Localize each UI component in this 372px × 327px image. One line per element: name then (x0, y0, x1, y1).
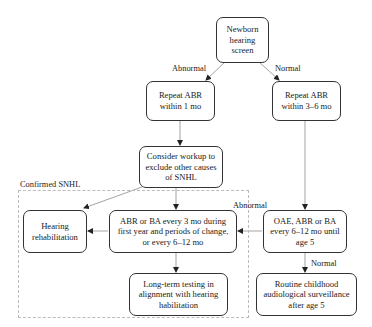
node-text: Repeat ABR within 1 mo (151, 90, 210, 111)
node-text: Repeat ABR within 3–6 mo (277, 90, 336, 111)
node-hearing-rehabilitation: Hearing rehabilitation (23, 210, 87, 253)
node-repeat-abr-1mo: Repeat ABR within 1 mo (146, 81, 215, 121)
edge-label-normal-2: Normal (311, 259, 337, 269)
node-text: Newborn hearing screen (221, 24, 264, 56)
node-text: Routine childhood audiological surveilla… (261, 279, 352, 311)
node-text: Hearing rehabilitation (28, 221, 82, 242)
node-consider-workup: Consider workup to exclude other causes … (139, 146, 223, 188)
node-repeat-abr-3-6mo: Repeat ABR within 3–6 mo (272, 81, 341, 121)
node-oae-abr-ba: OAE, ABR or BA every 6–12 mo until age 5 (263, 210, 347, 253)
node-text: Consider workup to exclude other causes … (144, 151, 218, 183)
confirmed-snhl-label: Confirmed SNHL (20, 180, 80, 190)
node-abr-or-ba: ABR or BA every 3 mo during first year a… (109, 210, 237, 253)
node-text: Long-term testing in alignment with hear… (134, 279, 223, 311)
edge-label-normal-1: Normal (275, 64, 301, 74)
edge-label-abnormal-2: Abnormal (233, 201, 267, 211)
edge-newborn-repeat1 (206, 62, 225, 80)
edge-label-abnormal-1: Abnormal (172, 64, 206, 74)
node-text: ABR or BA every 3 mo during first year a… (114, 216, 232, 248)
node-routine-surveillance: Routine childhood audiological surveilla… (256, 273, 357, 316)
node-newborn-hearing-screen: Newborn hearing screen (216, 17, 269, 63)
node-text: OAE, ABR or BA every 6–12 mo until age 5 (268, 216, 342, 248)
node-long-term-testing: Long-term testing in alignment with hear… (129, 273, 228, 316)
